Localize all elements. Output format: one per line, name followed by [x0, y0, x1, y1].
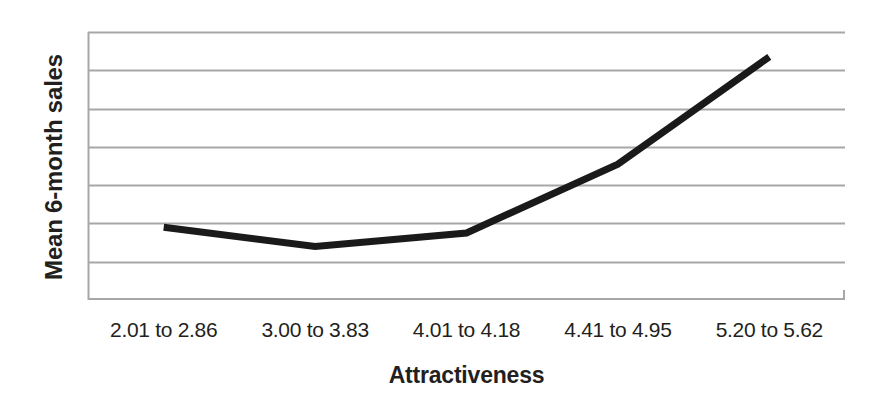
x-tick-label: 4.01 to 4.18 [391, 318, 542, 350]
plot-area [88, 32, 845, 300]
gridlines-group [88, 33, 845, 263]
plot-svg [88, 32, 845, 300]
data-series-line [164, 57, 770, 247]
x-tick-label: 4.41 to 4.95 [542, 318, 693, 350]
x-tick-label: 5.20 to 5.62 [694, 318, 845, 350]
line-chart-figure: Mean 6-month sales 2.01 to 2.86 3.00 to … [0, 0, 892, 411]
x-tick-label: 3.00 to 3.83 [239, 318, 390, 350]
x-tick-label: 2.01 to 2.86 [88, 318, 239, 350]
x-axis-tick-labels: 2.01 to 2.86 3.00 to 3.83 4.01 to 4.18 4… [88, 318, 845, 350]
y-axis-title: Mean 6-month sales [34, 2, 74, 332]
x-axis-title: Attractiveness [88, 362, 845, 389]
